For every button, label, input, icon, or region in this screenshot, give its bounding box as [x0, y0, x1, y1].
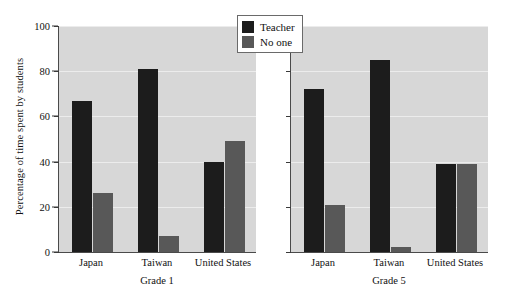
bar-teacher [304, 89, 324, 252]
chart-panel-grade-5 [290, 26, 488, 253]
chart-legend: Teacher No one [237, 15, 303, 53]
bar-group [72, 26, 113, 252]
panel-right-tickmarks [286, 26, 291, 252]
bar-no-one [325, 205, 345, 252]
legend-item-no-one: No one [242, 34, 295, 49]
y-axis-tick-label: 40 [16, 156, 50, 167]
bar-chart-figure: Percentage of time spent by students 020… [0, 0, 515, 294]
x-axis-category-label: Taiwan [374, 257, 405, 268]
bar-group [370, 26, 411, 252]
panel-tick-mark [286, 252, 291, 253]
bar-teacher [138, 69, 158, 252]
bar-group [138, 26, 179, 252]
legend-swatch-icon-teacher [242, 21, 254, 33]
x-axis-category-label: United States [427, 257, 483, 268]
x-axis-category-label: Japan [311, 257, 335, 268]
bar-no-one [93, 193, 113, 252]
y-axis: 020406080100 [24, 20, 58, 266]
legend-swatch-icon-no-one [242, 36, 254, 48]
panel-title: Grade 1 [140, 275, 174, 286]
y-axis-tick-label: 60 [16, 111, 50, 122]
panel-title: Grade 5 [372, 275, 406, 286]
bar-no-one [225, 141, 245, 252]
bar-teacher [72, 101, 92, 252]
y-axis-tick-label: 20 [16, 201, 50, 212]
chart-panel-grade-1 [58, 26, 256, 253]
y-axis-tick-label: 100 [16, 21, 50, 32]
bar-group [204, 26, 245, 252]
y-axis-tick-label: 80 [16, 66, 50, 77]
panel-left-tickmarks [54, 26, 59, 252]
bar-no-one [457, 164, 477, 252]
x-axis-category-label: Taiwan [142, 257, 173, 268]
bar-group [436, 26, 477, 252]
bar-no-one [159, 236, 179, 252]
bar-no-one [391, 247, 411, 252]
y-axis-tick-label: 0 [16, 247, 50, 258]
legend-item-teacher: Teacher [242, 19, 295, 34]
bar-group [304, 26, 345, 252]
bar-teacher [436, 164, 456, 252]
panel-tick-mark [54, 252, 59, 253]
bar-teacher [370, 60, 390, 252]
x-axis-category-label: Japan [79, 257, 103, 268]
legend-label-no-one: No one [260, 36, 292, 48]
bar-teacher [204, 162, 224, 252]
x-axis-category-label: United States [195, 257, 251, 268]
legend-label-teacher: Teacher [260, 21, 295, 33]
